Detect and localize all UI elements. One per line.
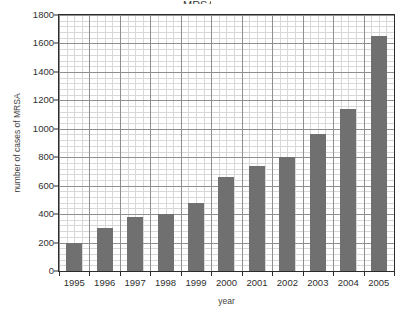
y-axis-tick-mark	[54, 15, 58, 16]
gridline-horizontal-major	[59, 271, 394, 272]
x-axis-tick-label: 1999	[185, 277, 206, 288]
y-axis-tick-label: 600	[24, 181, 54, 191]
y-axis-tick-label: 1600	[24, 39, 54, 49]
bar	[310, 134, 326, 271]
y-axis-tick-mark	[54, 71, 58, 72]
gridline-vertical-major	[394, 15, 395, 271]
x-axis-tick-label: 1996	[94, 277, 115, 288]
x-axis-tick-mark	[364, 272, 365, 276]
x-axis-tick-mark	[89, 272, 90, 276]
y-axis-tick-mark	[54, 157, 58, 158]
y-axis-tick-mark	[54, 128, 58, 129]
y-axis-tick-mark	[54, 242, 58, 243]
y-axis-title: number of cases of MRSA	[10, 13, 24, 273]
bar	[66, 243, 82, 271]
bars-layer	[59, 15, 394, 271]
x-axis-tick-mark	[303, 272, 304, 276]
bar	[340, 109, 356, 271]
y-axis-tick-label: 400	[24, 209, 54, 219]
x-axis-tick-mark	[394, 272, 395, 276]
x-axis-tick-mark	[211, 272, 212, 276]
bar	[371, 36, 387, 271]
x-axis-tick-label: 2005	[368, 277, 389, 288]
y-axis-tick-label: 200	[24, 238, 54, 248]
y-axis-tick-label: 0	[24, 266, 54, 276]
bar	[127, 217, 143, 271]
y-axis-tick-label: 800	[24, 152, 54, 162]
y-axis-tick-label: 1800	[24, 10, 54, 20]
x-axis-tick-label: 2001	[246, 277, 267, 288]
y-axis-tick-mark	[54, 271, 58, 272]
y-axis-tick-label: 1400	[24, 67, 54, 77]
x-axis-title: year	[58, 296, 395, 306]
bar	[218, 177, 234, 271]
bar	[249, 166, 265, 271]
x-axis-tick-label: 2000	[216, 277, 237, 288]
x-axis-tick-mark	[242, 272, 243, 276]
x-axis-tick-mark	[150, 272, 151, 276]
x-axis-tick-mark	[272, 272, 273, 276]
y-axis-title-text: number of cases of MRSA	[12, 93, 22, 192]
bar-chart: MRSA number of cases of MRSA 02004006008…	[0, 0, 401, 316]
gridline-horizontal-minor	[59, 271, 394, 272]
y-axis-tick-mark	[54, 100, 58, 101]
bar	[188, 203, 204, 271]
y-axis-tick-label: 1000	[24, 124, 54, 134]
y-axis-tick-mark	[54, 214, 58, 215]
bar	[279, 157, 295, 271]
x-axis-tick-mark	[120, 272, 121, 276]
plot-area	[58, 14, 395, 272]
chart-title-fragment: MRSA	[183, 0, 211, 4]
x-axis-tick-label: 2002	[277, 277, 298, 288]
x-axis-tick-labels: 1995199619971998199920002001200220032004…	[58, 277, 395, 291]
bar	[97, 228, 113, 271]
x-axis-tick-label: 1998	[155, 277, 176, 288]
y-axis-tick-labels: 020040060080010001200140016001800	[24, 14, 54, 272]
x-axis-tick-mark	[181, 272, 182, 276]
y-axis-tick-mark	[54, 43, 58, 44]
x-axis-tick-mark	[333, 272, 334, 276]
x-axis-tick-label: 2003	[307, 277, 328, 288]
y-axis-tick-mark	[54, 185, 58, 186]
x-axis-tick-label: 1997	[125, 277, 146, 288]
x-axis-tick-mark	[59, 272, 60, 276]
y-axis-tick-label: 1200	[24, 96, 54, 106]
bar	[158, 214, 174, 271]
x-axis-tick-label: 1995	[64, 277, 85, 288]
x-axis-tick-label: 2004	[338, 277, 359, 288]
